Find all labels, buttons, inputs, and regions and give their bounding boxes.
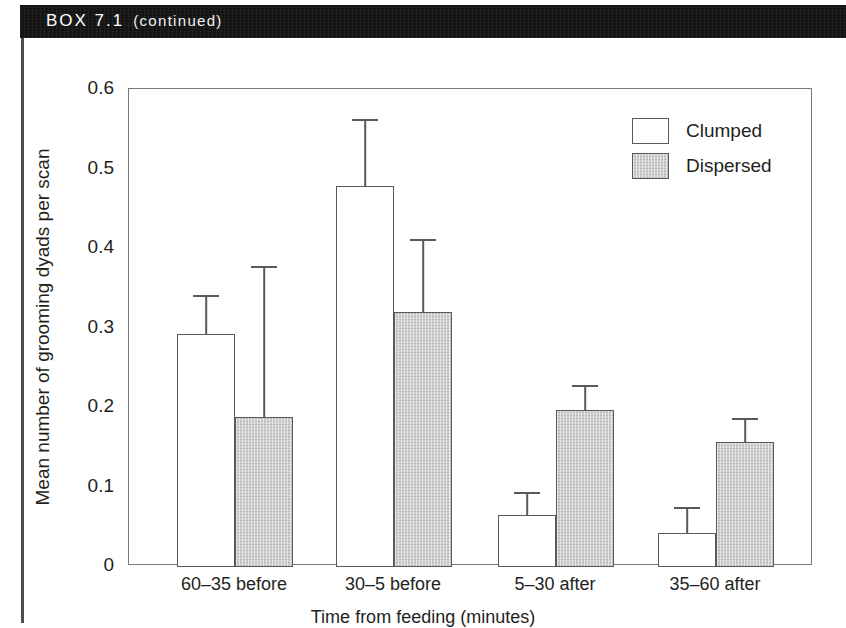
- plot-frame: Clumped Dispersed: [128, 88, 812, 565]
- legend-item-clumped: Clumped: [632, 118, 762, 144]
- y-axis-tick-label: 0.6: [66, 77, 114, 99]
- error-bar-stem: [686, 507, 688, 532]
- legend-item-dispersed: Dispersed: [632, 153, 772, 179]
- x-axis-title: Time from feeding (minutes): [0, 607, 846, 628]
- error-bar-cap: [410, 239, 436, 241]
- bar-clumped: [177, 334, 235, 567]
- bar-chart: Mean number of grooming dyads per scan 0…: [0, 44, 846, 623]
- y-axis-tick-label: 0.3: [66, 316, 114, 338]
- box-header-bar: BOX 7.1(continued): [20, 5, 846, 38]
- error-bar-cap: [732, 418, 758, 420]
- bar-dispersed: [394, 312, 452, 567]
- error-bar-cap: [674, 507, 700, 509]
- error-bar-stem: [263, 266, 265, 416]
- error-bar-cap: [193, 295, 219, 297]
- error-bar-stem: [364, 119, 366, 186]
- bar-clumped: [498, 515, 556, 567]
- y-axis-tick-label: 0.2: [66, 395, 114, 417]
- y-axis-tick-label: 0: [66, 554, 114, 576]
- error-bar-cap: [514, 492, 540, 494]
- error-bar-stem: [526, 492, 528, 515]
- y-axis-tick-label: 0.1: [66, 475, 114, 497]
- legend-swatch-clumped: [632, 118, 669, 144]
- y-axis-tick-label: 0.4: [66, 236, 114, 258]
- error-bar-stem: [744, 418, 746, 442]
- error-bar-cap: [352, 119, 378, 121]
- legend-swatch-dispersed: [632, 153, 669, 179]
- box-title: BOX 7.1(continued): [46, 11, 223, 31]
- x-axis-tick-label: 35–60 after: [669, 574, 760, 595]
- legend-label-clumped: Clumped: [686, 120, 762, 142]
- x-axis-tick-label: 30–5 before: [345, 574, 441, 595]
- bar-dispersed: [235, 417, 293, 567]
- error-bar-stem: [422, 239, 424, 312]
- legend-label-dispersed: Dispersed: [686, 155, 772, 177]
- x-axis-tick-label: 5–30 after: [514, 574, 595, 595]
- box-title-continued: (continued): [133, 12, 222, 29]
- error-bar-stem: [584, 385, 586, 410]
- box-title-text: BOX 7.1: [46, 11, 124, 30]
- bar-clumped: [336, 186, 394, 567]
- error-bar-cap: [572, 385, 598, 387]
- error-bar-cap: [251, 266, 277, 268]
- bar-dispersed: [556, 410, 614, 567]
- x-axis-tick-label: 60–35 before: [181, 574, 287, 595]
- bar-dispersed: [716, 442, 774, 567]
- y-axis-tick-label: 0.5: [66, 157, 114, 179]
- y-axis-title: Mean number of grooming dyads per scan: [32, 148, 54, 505]
- bar-clumped: [658, 533, 716, 567]
- error-bar-stem: [205, 295, 207, 334]
